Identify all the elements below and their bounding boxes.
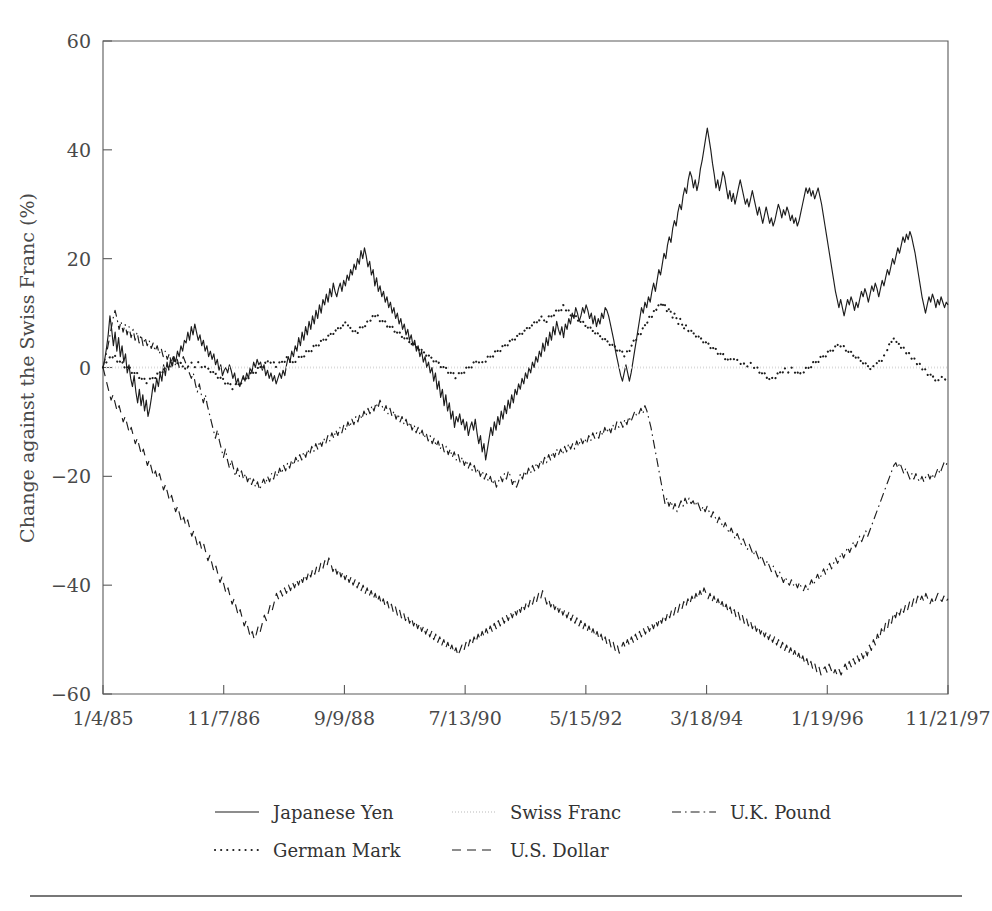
- y-tick-label: 0: [79, 357, 91, 379]
- y-tick-label: 40: [67, 139, 91, 161]
- figure-background: [0, 0, 992, 911]
- x-tick-label: 11/7/86: [187, 707, 260, 729]
- currency-change-line-chart: 6040200−20−40−60 1/4/8511/7/869/9/887/13…: [0, 0, 992, 911]
- x-tick-label: 1/19/96: [791, 707, 864, 729]
- chart-figure: 6040200−20−40−60 1/4/8511/7/869/9/887/13…: [0, 0, 992, 911]
- x-tick-label: 1/4/85: [72, 707, 133, 729]
- y-tick-label: 20: [67, 248, 91, 270]
- legend-label: German Mark: [273, 840, 402, 861]
- x-tick-label: 5/15/92: [549, 707, 622, 729]
- y-tick-label: −20: [51, 465, 91, 487]
- x-tick-label: 7/13/90: [429, 707, 502, 729]
- y-tick-label: −60: [51, 683, 91, 705]
- y-axis-title: Change against the Swiss Franc (%): [16, 193, 38, 543]
- y-tick-label: 60: [67, 30, 91, 52]
- legend-label: U.S. Dollar: [510, 840, 609, 861]
- legend-label: U.K. Pound: [730, 802, 831, 823]
- legend-label: Swiss Franc: [510, 802, 621, 823]
- x-tick-label: 9/9/88: [314, 707, 375, 729]
- x-tick-label: 11/21/97: [905, 707, 990, 729]
- x-tick-label: 3/18/94: [670, 707, 743, 729]
- legend-label: Japanese Yen: [271, 802, 394, 823]
- y-tick-label: −40: [51, 574, 91, 596]
